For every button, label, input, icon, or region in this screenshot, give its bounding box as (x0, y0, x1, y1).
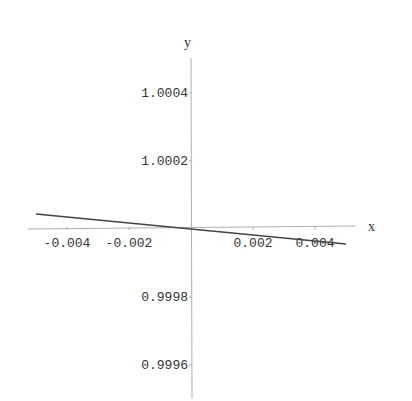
y-axis-label: y (184, 35, 191, 50)
x-axis-label: x (368, 219, 375, 234)
x-tick-label: -0.004 (44, 236, 91, 251)
x-tick-label: -0.002 (106, 236, 153, 251)
y-axis (191, 58, 192, 398)
y-tick-label: 0.9998 (141, 290, 188, 305)
y-tick-label: 1.0002 (141, 154, 188, 169)
y-ticks: 1.00041.00020.99980.9996 (141, 86, 192, 373)
y-tick-label: 0.9996 (141, 358, 188, 373)
y-tick-label: 1.0004 (141, 86, 188, 101)
x-tick-label: 0.004 (295, 236, 334, 251)
x-tick-label: 0.002 (233, 236, 272, 251)
plot-area: -0.004-0.0020.0020.004 1.00041.00020.999… (0, 0, 412, 401)
